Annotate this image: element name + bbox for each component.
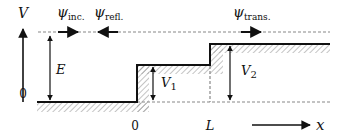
psi-transmitted-label: ψtrans. xyxy=(233,4,271,22)
energy-label: E xyxy=(55,62,66,77)
x-L-label: L xyxy=(205,118,215,133)
v2-label: V2 xyxy=(241,63,257,80)
psi-reflected-label: ψrefl. xyxy=(94,4,124,22)
hatch-step1-top xyxy=(137,66,210,74)
v-axis-label: V xyxy=(18,5,30,21)
x-axis-label: x xyxy=(316,116,325,134)
psi-incident-label: ψinc. xyxy=(57,4,85,22)
hatch-base xyxy=(37,103,149,112)
v-axis-zero: 0 xyxy=(19,87,27,101)
x-origin-label: 0 xyxy=(131,119,139,133)
potential-step-diagram: V 0 E V1 V2 ψinc. ψrefl. ψtrans. 0 L x xyxy=(0,0,346,140)
hatch-step2-top xyxy=(210,45,330,53)
v1-label: V1 xyxy=(161,75,177,92)
